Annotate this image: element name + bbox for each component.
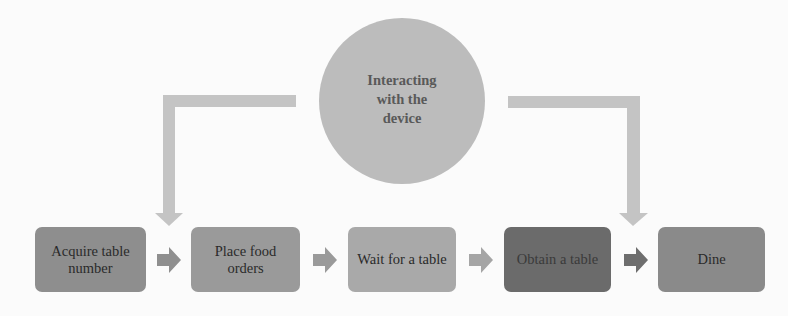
hub-circle-interacting-with-device: Interacting with the device — [319, 18, 485, 184]
step-label: Acquire table number — [41, 243, 140, 277]
hub-label: Interacting with the device — [357, 71, 447, 128]
arrow-right-icon — [157, 247, 181, 273]
arrow-right-icon — [313, 247, 337, 273]
step-dine: Dine — [658, 227, 765, 292]
step-label: Dine — [697, 251, 725, 268]
step-label: Wait for a table — [357, 251, 446, 268]
arrow-right-icon — [624, 247, 648, 273]
step-label: Place food orders — [197, 243, 294, 277]
arrow-down-icon — [155, 213, 183, 226]
step-label: Obtain a table — [517, 251, 598, 268]
step-wait-for-a-table: Wait for a table — [348, 227, 456, 292]
diagram-canvas: Interacting with the device Acquire tabl… — [0, 0, 788, 316]
step-obtain-a-table: Obtain a table — [504, 227, 611, 292]
arrow-down-icon — [619, 213, 648, 226]
step-acquire-table-number: Acquire table number — [35, 227, 146, 292]
right-elbow-connector — [508, 96, 648, 226]
left-elbow-connector — [155, 95, 296, 226]
step-place-food-orders: Place food orders — [191, 227, 300, 292]
arrow-right-icon — [469, 247, 493, 273]
